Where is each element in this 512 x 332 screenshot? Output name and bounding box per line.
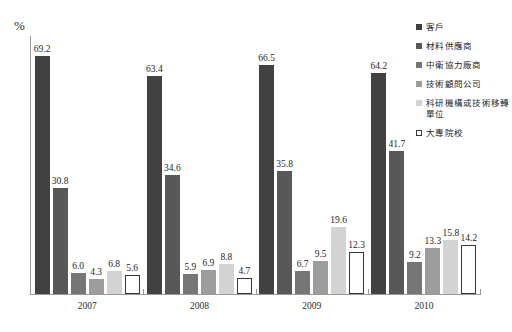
bar — [165, 175, 180, 294]
bar — [89, 279, 104, 294]
bar-value-label: 66.5 — [258, 53, 275, 63]
bar-slot: 4.3 — [89, 36, 104, 294]
bar-slot: 6.0 — [71, 36, 86, 294]
x-axis-tick-mark — [480, 289, 481, 295]
x-axis-tick-mark — [143, 289, 144, 295]
bar-value-label: 6.7 — [297, 259, 309, 269]
legend-item: 材料供應商 — [416, 41, 512, 52]
bar-value-label: 6.0 — [72, 261, 84, 271]
bar-value-label: 14.2 — [461, 233, 478, 243]
legend-item: 客戶 — [416, 22, 512, 33]
bar-group-bars: 63.434.65.96.98.84.7 — [143, 36, 255, 294]
bar-slot: 66.5 — [259, 36, 274, 294]
bar — [183, 274, 198, 294]
bar-value-label: 9.5 — [315, 249, 327, 259]
bar — [53, 188, 68, 294]
bar-value-label: 69.2 — [34, 44, 51, 54]
bar-group: 63.434.65.96.98.84.7 — [143, 36, 255, 294]
legend-item: 中衛協力廠商 — [416, 60, 512, 71]
bar — [219, 264, 234, 294]
bar-value-label: 41.7 — [389, 139, 406, 149]
bar — [277, 171, 292, 294]
bar-group-bars: 69.230.86.04.36.85.6 — [31, 36, 143, 294]
bar-slot: 34.6 — [165, 36, 180, 294]
bar — [407, 262, 422, 294]
bar — [371, 73, 386, 294]
legend-square-icon — [416, 43, 422, 49]
legend-square-icon — [416, 100, 422, 106]
bar-value-label: 64.2 — [371, 61, 388, 71]
plot-area: 69.230.86.04.36.85.663.434.65.96.98.84.7… — [31, 36, 480, 294]
x-axis-tick-mark — [368, 289, 369, 295]
x-axis-tick-mark — [256, 289, 257, 295]
bar — [35, 56, 50, 294]
legend-square-icon — [416, 81, 422, 87]
bar-chart: % 69.230.86.04.36.85.663.434.65.96.98.84… — [0, 0, 512, 332]
bar-value-label: 15.8 — [443, 228, 460, 238]
legend-item-label: 客戶 — [426, 22, 445, 33]
bar — [71, 273, 86, 294]
x-axis-tick-label: 2009 — [256, 301, 368, 311]
legend-item: 技術顧問公司 — [416, 79, 512, 90]
bar — [313, 261, 328, 294]
bar — [349, 252, 364, 294]
bar-value-label: 9.2 — [409, 250, 421, 260]
bar-slot: 9.5 — [313, 36, 328, 294]
bar-slot: 5.6 — [125, 36, 140, 294]
bar — [201, 270, 216, 294]
bar — [107, 271, 122, 294]
bar-slot: 64.2 — [371, 36, 386, 294]
bar-slot: 6.9 — [201, 36, 216, 294]
legend-item-label: 材料供應商 — [426, 41, 473, 52]
bar-slot: 5.9 — [183, 36, 198, 294]
bar-slot: 12.3 — [349, 36, 364, 294]
bar — [389, 151, 404, 294]
legend-item-label: 中衛協力廠商 — [426, 60, 482, 71]
bar-value-label: 12.3 — [348, 240, 365, 250]
bar-value-label: 30.8 — [52, 176, 69, 186]
bar-value-label: 34.6 — [164, 163, 181, 173]
bar-value-label: 4.3 — [90, 267, 102, 277]
bar-slot: 69.2 — [35, 36, 50, 294]
x-axis-tick-label: 2008 — [143, 301, 255, 311]
x-axis-tick-label: 2007 — [31, 301, 143, 311]
legend-square-icon — [416, 62, 422, 68]
legend-item: 科研機構或技術移轉單位 — [416, 98, 512, 120]
bar-slot: 6.7 — [295, 36, 310, 294]
bar-value-label: 63.4 — [146, 64, 163, 74]
bar-slot: 19.6 — [331, 36, 346, 294]
bar-value-label: 6.8 — [108, 259, 120, 269]
bar-value-label: 5.9 — [184, 262, 196, 272]
bar — [443, 240, 458, 294]
bar — [147, 76, 162, 294]
bar — [237, 278, 252, 294]
bar — [461, 245, 476, 294]
bar-value-label: 19.6 — [330, 215, 347, 225]
legend-item-label: 科研機構或技術移轉單位 — [426, 98, 512, 120]
chart-legend: 客戶材料供應商中衛協力廠商技術顧問公司科研機構或技術移轉單位大專院校 — [416, 22, 512, 147]
bar-group: 66.535.86.79.519.612.3 — [256, 36, 368, 294]
bar-slot: 63.4 — [147, 36, 162, 294]
bar-slot: 4.7 — [237, 36, 252, 294]
legend-item-label: 技術顧問公司 — [426, 79, 482, 90]
bar — [125, 275, 140, 294]
bar-slot: 41.7 — [389, 36, 404, 294]
bar-value-label: 5.6 — [126, 263, 138, 273]
bar-slot: 35.8 — [277, 36, 292, 294]
bar — [259, 65, 274, 294]
bar-slot: 6.8 — [107, 36, 122, 294]
legend-item: 大專院校 — [416, 128, 512, 139]
y-axis-unit-label: % — [14, 18, 25, 34]
bar-value-label: 4.7 — [238, 266, 250, 276]
bar-group: 69.230.86.04.36.85.6 — [31, 36, 143, 294]
x-axis-tick-label: 2010 — [368, 301, 480, 311]
bar-group-bars: 66.535.86.79.519.612.3 — [256, 36, 368, 294]
legend-square-icon — [416, 24, 422, 30]
bar-slot: 8.8 — [219, 36, 234, 294]
bar — [425, 248, 440, 294]
bar — [295, 271, 310, 294]
bar-value-label: 35.8 — [276, 159, 293, 169]
bar — [331, 227, 346, 294]
bar-value-label: 6.9 — [202, 258, 214, 268]
bar-value-label: 13.3 — [425, 236, 442, 246]
